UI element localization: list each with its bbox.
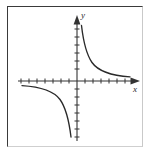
hyperbola-branch-quadrant-1 bbox=[82, 26, 131, 77]
y-axis-arrowhead bbox=[74, 15, 81, 25]
x-axis-label: x bbox=[133, 85, 137, 94]
figure-root: y x bbox=[0, 0, 151, 156]
x-axis-group bbox=[18, 78, 140, 85]
hyperbola-branch-quadrant-3 bbox=[22, 86, 71, 137]
graph-canvas bbox=[0, 0, 151, 156]
y-axis-group bbox=[74, 15, 81, 141]
y-axis-label: y bbox=[81, 11, 85, 20]
